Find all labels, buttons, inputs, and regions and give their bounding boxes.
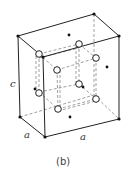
hidden-edges <box>20 14 119 119</box>
visible-edges <box>18 14 119 137</box>
figure-caption: (b) <box>56 156 70 167</box>
unit-cell-diagram: c a a (b) <box>0 0 132 174</box>
label-a-right: a <box>80 131 86 142</box>
label-c: c <box>10 78 16 89</box>
label-a-left: a <box>24 129 30 140</box>
interior-atoms <box>36 41 100 113</box>
corner-atoms <box>16 12 120 138</box>
